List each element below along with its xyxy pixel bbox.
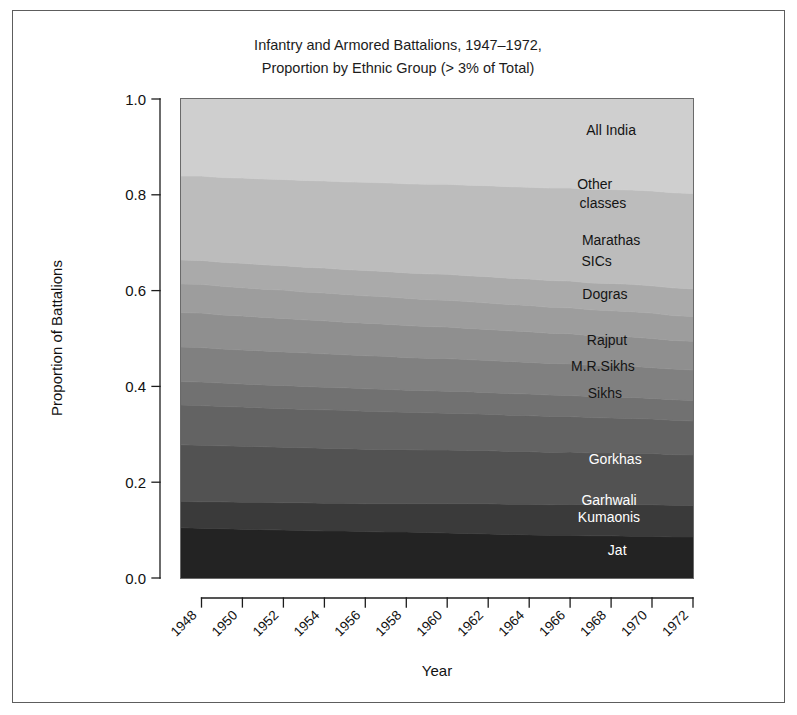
y-axis-title: Proportion of Battalions: [48, 260, 65, 416]
x-tick-label: 1972: [659, 608, 691, 640]
band-label-classes: classes: [580, 195, 627, 211]
band-label-sics: SICs: [582, 253, 612, 269]
y-axis-group: 0.00.20.40.60.81.0: [125, 91, 160, 587]
x-tick-label: 1950: [209, 608, 241, 640]
band-label-jat: Jat: [608, 542, 627, 558]
y-tick-label: 0.8: [125, 186, 146, 203]
band-label-sikhs: Sikhs: [588, 385, 622, 401]
band-label-marathas: Marathas: [582, 232, 640, 248]
x-tick-label: 1968: [577, 608, 609, 640]
chart-title-line2: Proportion by Ethnic Group (> 3% of Tota…: [262, 60, 535, 76]
x-tick-label: 1966: [536, 608, 568, 640]
x-tick-label: 1952: [250, 608, 282, 640]
figure-container: Infantry and Armored Battalions, 1947–19…: [0, 0, 797, 715]
band-label-dogras: Dogras: [582, 286, 627, 302]
x-tick-label: 1956: [332, 608, 364, 640]
band-label-other: Other: [577, 176, 612, 192]
y-tick-label: 0.4: [125, 378, 146, 395]
y-tick-label: 0.6: [125, 282, 146, 299]
x-tick-label: 1964: [495, 607, 527, 639]
stacked-area-chart: Infantry and Armored Battalions, 1947–19…: [0, 0, 797, 715]
y-tick-label: 0.2: [125, 474, 146, 491]
x-tick-label: 1954: [291, 607, 323, 639]
band-label-kumaonis: Kumaonis: [578, 509, 640, 525]
band-label-m-r-sikhs: M.R.Sikhs: [571, 358, 635, 374]
y-tick-label: 1.0: [125, 91, 146, 108]
band-label-gorkhas: Gorkhas: [589, 451, 642, 467]
x-axis-title: Year: [422, 662, 452, 679]
band-label-garhwali: Garhwali: [581, 492, 636, 508]
x-tick-label: 1962: [454, 608, 486, 640]
x-axis-group: 1948195019521954195619581960196219641966…: [168, 598, 693, 639]
x-tick-label: 1960: [413, 608, 445, 640]
x-tick-label: 1970: [618, 608, 650, 640]
x-tick-label: 1958: [373, 608, 405, 640]
band-label-rajput: Rajput: [587, 332, 628, 348]
band-label-all-india: All India: [586, 122, 636, 138]
x-tick-label: 1948: [168, 608, 200, 640]
y-tick-label: 0.0: [125, 570, 146, 587]
chart-title-line1: Infantry and Armored Battalions, 1947–19…: [254, 37, 542, 53]
